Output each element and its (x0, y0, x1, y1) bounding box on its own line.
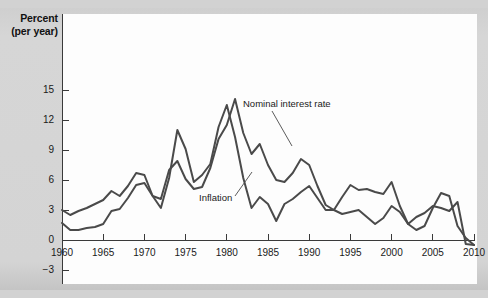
series-line-inflation (62, 105, 474, 245)
series-line-nominal-interest-rate (62, 99, 474, 245)
series-label-inflation: Inflation (199, 192, 232, 203)
series-lines (0, 0, 488, 298)
series-label-nominal-interest-rate: Nominal interest rate (243, 98, 331, 109)
figure-background: Percent (per year) 15129630−3 1960196519… (0, 0, 488, 298)
leader-line-nominal (272, 111, 292, 146)
